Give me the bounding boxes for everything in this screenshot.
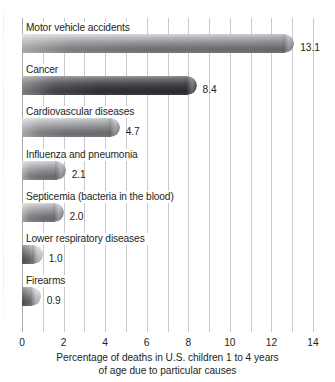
scan-edge-artifact [3, 0, 4, 382]
bar-chart: Motor vehicle accidents13.1Cancer8.4Card… [0, 0, 335, 382]
x-tick-6: 6 [144, 336, 150, 349]
bar-value-label: 13.1 [300, 42, 319, 54]
x-axis-tick-labels: 02468101214 [0, 336, 335, 352]
gridline-5 [126, 18, 127, 332]
gridline-9 [209, 18, 210, 332]
bar-end-cap [283, 34, 294, 53]
bar-category-label: Influenza and pneumonia [26, 149, 141, 161]
bar-fill [22, 287, 41, 306]
bar-category-label: Firearms [26, 275, 68, 287]
x-tick-4: 4 [102, 336, 108, 349]
x-tick-12: 12 [266, 336, 277, 349]
x-tick-14: 14 [307, 336, 318, 349]
plot-area: Motor vehicle accidents13.1Cancer8.4Card… [22, 18, 313, 332]
bar-fill [22, 34, 294, 53]
gridline-4 [105, 18, 106, 332]
bar [22, 203, 64, 222]
x-tick-2: 2 [61, 336, 67, 349]
bar [22, 287, 41, 306]
bar-category-label: Cardiovascular diseases [26, 106, 137, 118]
bar-end-cap [32, 245, 43, 264]
x-tick-0: 0 [19, 336, 25, 349]
bar [22, 76, 197, 95]
gridline-6 [147, 18, 148, 332]
x-axis-title-line-1: Percentage of deaths in U.S. children 1 … [0, 352, 335, 365]
bar [22, 161, 66, 180]
bar-fill [22, 245, 43, 264]
bar-category-label: Septicemia (bacteria in the blood) [26, 191, 177, 203]
bar-end-cap [186, 76, 197, 95]
bar-shading-horizontal [22, 76, 197, 95]
bar-end-cap [53, 203, 64, 222]
x-tick-8: 8 [185, 336, 191, 349]
gridline-11 [251, 18, 252, 332]
bar-value-label: 8.4 [203, 84, 217, 96]
bar-value-label: 2.1 [72, 169, 86, 181]
bar-fill [22, 76, 197, 95]
bar-value-label: 2.0 [70, 211, 84, 223]
x-tick-10: 10 [224, 336, 235, 349]
bar-category-label: Cancer [26, 64, 61, 76]
gridline-14 [313, 18, 314, 332]
bar-category-label: Motor vehicle accidents [26, 22, 133, 34]
bar-value-label: 4.7 [126, 126, 140, 138]
gridline-13 [292, 18, 293, 332]
x-axis-title-line-2: of age due to particular causes [0, 365, 335, 378]
gridline-7 [168, 18, 169, 332]
bar-shading-horizontal [22, 118, 120, 137]
bar [22, 245, 43, 264]
bar-fill [22, 203, 64, 222]
x-axis-title: Percentage of deaths in U.S. children 1 … [0, 352, 335, 377]
bar-shading-horizontal [22, 34, 294, 53]
bar-fill [22, 161, 66, 180]
bar-fill [22, 118, 120, 137]
bar-category-label: Lower respiratory diseases [26, 233, 148, 245]
bar-value-label: 0.9 [47, 295, 61, 307]
bar-end-cap [55, 161, 66, 180]
bar-value-label: 1.0 [49, 253, 63, 265]
bar-end-cap [30, 287, 41, 306]
bar [22, 118, 120, 137]
gridline-10 [230, 18, 231, 332]
bar-end-cap [109, 118, 120, 137]
bar [22, 34, 294, 53]
gridline-12 [271, 18, 272, 332]
gridline-8 [188, 18, 189, 332]
